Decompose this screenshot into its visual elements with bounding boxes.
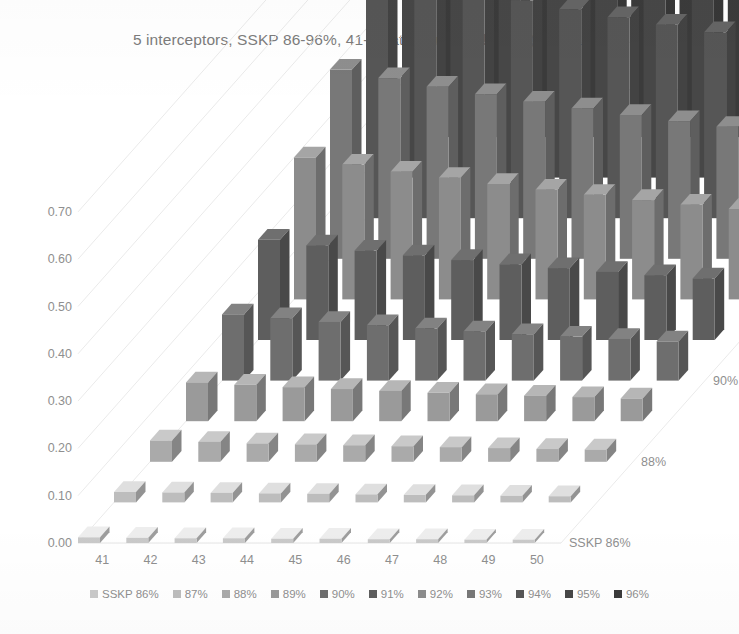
legend-swatch-icon xyxy=(173,590,181,598)
bar-3d xyxy=(283,376,315,421)
bar-3d xyxy=(560,326,592,381)
x-axis-tick-label: 49 xyxy=(482,553,496,567)
bar-3d xyxy=(513,529,545,543)
legend-item[interactable]: 92% xyxy=(418,588,453,600)
legend-label: 92% xyxy=(430,588,453,600)
legend-label: 88% xyxy=(234,588,257,600)
legend-label: 96% xyxy=(626,588,649,600)
depth-axis-tick-label: 90% xyxy=(713,374,738,388)
bar-3d xyxy=(428,382,460,421)
legend-label: 93% xyxy=(479,588,502,600)
y-axis-tick-label: 0.40 xyxy=(26,347,72,361)
legend-swatch-icon xyxy=(90,590,98,598)
bar-3d xyxy=(416,529,448,543)
bar-3d xyxy=(198,431,230,462)
x-axis-tick-label: 46 xyxy=(337,553,351,567)
bar-3d xyxy=(476,384,508,422)
y-axis-tick-label: 0.30 xyxy=(26,394,72,408)
bar-3d xyxy=(657,331,689,381)
bar-3d xyxy=(150,430,182,462)
legend-swatch-icon xyxy=(516,590,524,598)
legend-item[interactable]: 94% xyxy=(516,588,551,600)
y-axis-tick-label: 0.00 xyxy=(26,536,72,550)
x-axis-tick-label: 50 xyxy=(530,553,544,567)
bar-3d xyxy=(270,307,302,380)
bar-3d xyxy=(440,436,472,461)
bar-3d xyxy=(464,529,496,543)
bar-3d xyxy=(549,486,581,503)
bar-3d xyxy=(222,304,254,381)
x-axis-tick-label: 43 xyxy=(192,553,206,567)
bar-3d xyxy=(223,528,255,543)
bar-3d xyxy=(162,482,194,503)
bar-3d xyxy=(608,328,640,380)
x-axis-tick-label: 41 xyxy=(95,553,109,567)
legend-swatch-icon xyxy=(418,590,426,598)
legend-label: 95% xyxy=(577,588,600,600)
legend-label: 90% xyxy=(332,588,355,600)
legend-item[interactable]: 87% xyxy=(173,588,208,600)
legend-item[interactable]: 90% xyxy=(320,588,355,600)
bar-3d xyxy=(392,435,424,461)
bar-3d xyxy=(319,311,351,380)
bar-3d xyxy=(356,484,388,503)
bar-3d xyxy=(78,527,110,543)
bar-3d xyxy=(343,435,375,462)
legend-item[interactable]: 91% xyxy=(369,588,404,600)
bar-3d xyxy=(211,482,243,502)
bar-3d xyxy=(186,372,218,421)
legend-swatch-icon xyxy=(222,590,230,598)
bar-3d xyxy=(621,388,653,421)
bar-3d xyxy=(572,386,604,421)
bar-3d xyxy=(271,528,303,543)
legend-swatch-icon xyxy=(271,590,279,598)
chart-legend: SSKP 86%87%88%89%90%91%92%93%94%95%96% xyxy=(0,588,739,600)
bar-3d xyxy=(331,378,363,421)
x-axis-tick-label: 44 xyxy=(240,553,254,567)
bar-3d xyxy=(367,315,399,381)
bar-3d xyxy=(175,528,207,543)
legend-label: 94% xyxy=(528,588,551,600)
legend-label: SSKP 86% xyxy=(102,588,159,600)
y-axis-tick-label: 0.20 xyxy=(26,441,72,455)
x-axis-tick-label: 48 xyxy=(433,553,447,567)
legend-label: 89% xyxy=(283,588,306,600)
bar-3d xyxy=(379,380,411,421)
bar-3d xyxy=(693,268,725,340)
bar-3d xyxy=(114,481,146,502)
legend-swatch-icon xyxy=(565,590,573,598)
legend-swatch-icon xyxy=(614,590,622,598)
bar-3d xyxy=(368,529,400,543)
legend-swatch-icon xyxy=(320,590,328,598)
bar-3d xyxy=(234,374,265,421)
bar-group xyxy=(78,0,739,543)
y-axis-tick-label: 0.10 xyxy=(26,489,72,503)
bar-3d xyxy=(415,318,447,381)
bar-3d xyxy=(247,433,279,462)
x-axis-tick-label: 45 xyxy=(288,553,302,567)
legend-item[interactable]: 93% xyxy=(467,588,502,600)
bar-3d xyxy=(404,484,436,502)
bar-3d xyxy=(464,321,496,381)
legend-item[interactable]: 96% xyxy=(614,588,649,600)
bar-3d xyxy=(500,485,532,502)
bar-3d xyxy=(259,483,291,503)
legend-item[interactable]: 89% xyxy=(271,588,306,600)
bar-3d xyxy=(585,439,617,462)
bar-3d xyxy=(536,438,568,461)
chart-root: 5 interceptors, SSKP 86-96%, 41-50 attac… xyxy=(0,0,739,634)
legend-swatch-icon xyxy=(369,590,377,598)
legend-label: 91% xyxy=(381,588,404,600)
x-axis-tick-label: 47 xyxy=(385,553,399,567)
y-axis-tick-label: 0.70 xyxy=(26,205,72,219)
bar-3d xyxy=(452,485,484,503)
legend-item[interactable]: 95% xyxy=(565,588,600,600)
bar-3d xyxy=(320,528,352,543)
bar-3d xyxy=(729,198,739,299)
legend-label: 87% xyxy=(185,588,208,600)
legend-item[interactable]: 88% xyxy=(222,588,257,600)
y-axis-tick-label: 0.60 xyxy=(26,252,72,266)
x-axis-tick-label: 42 xyxy=(143,553,157,567)
bar-3d xyxy=(512,324,544,381)
legend-item[interactable]: SSKP 86% xyxy=(90,588,159,600)
